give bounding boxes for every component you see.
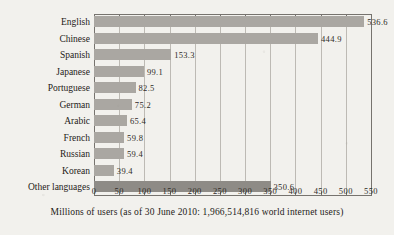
bar-row: 444.9 (94, 31, 372, 48)
bar-row: 59.4 (94, 146, 372, 163)
bar-row: 59.8 (94, 130, 372, 147)
category-label: Japanese (0, 64, 90, 81)
bar-row: 82.5 (94, 80, 372, 97)
bar (94, 165, 114, 176)
bar-value-label: 75.2 (135, 97, 151, 114)
category-label: Korean (0, 163, 90, 180)
bar-row: 536.6 (94, 14, 372, 31)
category-label: Russian (0, 146, 90, 163)
bar (94, 99, 132, 110)
bar-value-label: 59.4 (127, 146, 143, 163)
bar (94, 148, 124, 159)
axis-caption: Millions of users (as of 30 June 2010: 1… (0, 207, 394, 217)
category-label: Other languages (0, 179, 90, 196)
category-label: French (0, 130, 90, 147)
category-label: Portuguese (0, 80, 90, 97)
bar-value-label: 82.5 (139, 80, 155, 97)
bar-value-label: 444.9 (321, 31, 342, 48)
chart-figure: 536.6444.9153.399.182.575.265.459.859.43… (0, 0, 394, 235)
bar-value-label: 536.6 (367, 14, 388, 31)
bar (94, 49, 171, 60)
category-label: Spanish (0, 47, 90, 64)
plot-area: 536.6444.9153.399.182.575.265.459.859.43… (94, 14, 372, 196)
category-label: Arabic (0, 113, 90, 130)
bar-value-label: 65.4 (130, 113, 146, 130)
bar-value-label: 39.4 (117, 163, 133, 180)
bar-row: 65.4 (94, 113, 372, 130)
bar (94, 16, 364, 27)
bar (94, 33, 318, 44)
category-label: Chinese (0, 31, 90, 48)
category-label: English (0, 14, 90, 31)
x-tick-label: 550 (356, 186, 386, 196)
bar-row: 153.3 (94, 47, 372, 64)
bar (94, 115, 127, 126)
bar-value-label: 59.8 (127, 130, 143, 147)
bar-row: 75.2 (94, 97, 372, 114)
bar (94, 132, 124, 143)
bar-row: 39.4 (94, 163, 372, 180)
bar-value-label: 99.1 (147, 64, 163, 81)
bar (94, 82, 136, 93)
category-label: German (0, 97, 90, 114)
bar (94, 66, 144, 77)
bar-row: 99.1 (94, 64, 372, 81)
bar-value-label: 153.3 (174, 47, 195, 64)
